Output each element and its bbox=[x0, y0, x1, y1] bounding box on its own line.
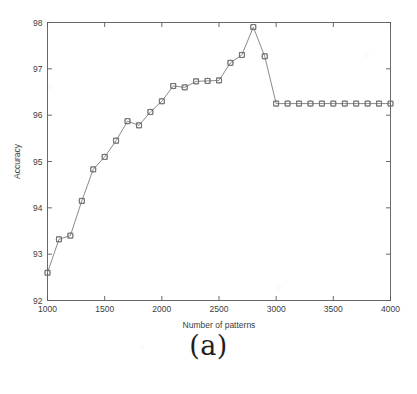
y-axis-label: Accuracy bbox=[12, 143, 22, 179]
x-axis-label: Number of patterns bbox=[183, 320, 256, 330]
tick-labels: 1000150020002500300035004000929394959697… bbox=[33, 18, 400, 314]
figure-caption: (a) bbox=[0, 330, 417, 361]
y-tick-label: 92 bbox=[33, 296, 43, 306]
y-tick-label: 95 bbox=[33, 157, 43, 167]
x-tick-label: 4000 bbox=[381, 304, 400, 314]
y-tick-label: 96 bbox=[33, 110, 43, 120]
axes bbox=[48, 23, 391, 301]
x-tick-label: 3500 bbox=[324, 304, 343, 314]
y-tick-label: 94 bbox=[33, 203, 43, 213]
plot-frame bbox=[48, 23, 391, 301]
x-tick-label: 3000 bbox=[267, 304, 286, 314]
series-line bbox=[48, 27, 391, 273]
axis-labels: Number of patternsAccuracy bbox=[12, 143, 255, 329]
figure-panel: 1000150020002500300035004000929394959697… bbox=[0, 0, 417, 394]
y-tick-label: 93 bbox=[33, 249, 43, 259]
x-tick-label: 2000 bbox=[152, 304, 171, 314]
y-tick-label: 98 bbox=[33, 18, 43, 28]
x-tick-label: 2500 bbox=[210, 304, 229, 314]
y-tick-label: 97 bbox=[33, 64, 43, 74]
data-series bbox=[45, 24, 393, 275]
x-tick-label: 1500 bbox=[95, 304, 114, 314]
